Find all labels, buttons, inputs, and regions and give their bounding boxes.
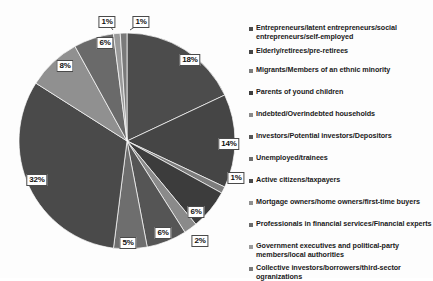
legend-item-label: Active citizens/taxpayers bbox=[256, 176, 340, 185]
pie-data-label: 32% bbox=[26, 174, 47, 186]
legend-item-label: Investors/Potential investors/Depositors bbox=[256, 132, 392, 141]
legend-marker-icon bbox=[249, 245, 253, 249]
pie-data-label: 14% bbox=[218, 138, 239, 150]
legend-item-label: Collective investors/borrowers/third-sec… bbox=[256, 264, 433, 281]
legend-marker-icon bbox=[249, 135, 253, 139]
legend-item-label: Professionals in financial services/Fina… bbox=[256, 220, 432, 229]
legend-item[interactable]: Elderly/retirees/pre-retirees bbox=[249, 47, 433, 56]
legend-marker-icon bbox=[249, 27, 253, 31]
pie-data-label: 18% bbox=[179, 54, 200, 66]
legend-item[interactable]: Government executives and political-part… bbox=[249, 242, 433, 259]
legend-item-label: Unemployed/trainees bbox=[256, 154, 328, 163]
pie-data-label: 1% bbox=[227, 172, 244, 184]
legend-marker-icon bbox=[249, 69, 253, 73]
legend-item[interactable]: Mortgage owners/home owners/first-time b… bbox=[249, 198, 433, 207]
pie-data-label: 1% bbox=[98, 16, 115, 28]
legend-item-label: Indebted/Overindebted households bbox=[256, 110, 375, 119]
legend-item-label: Mortgage owners/home owners/first-time b… bbox=[256, 198, 420, 207]
legend-item[interactable]: Professionals in financial services/Fina… bbox=[249, 220, 433, 229]
legend-item[interactable]: Indebted/Overindebted households bbox=[249, 110, 433, 119]
legend-item[interactable]: Parents of yound children bbox=[249, 88, 433, 97]
legend-item-label: Government executives and political-part… bbox=[256, 242, 433, 259]
pie-data-label: 8% bbox=[56, 60, 73, 72]
legend-item-label: Elderly/retirees/pre-retirees bbox=[256, 47, 348, 56]
legend-marker-icon bbox=[249, 113, 253, 117]
pie-data-label: 2% bbox=[191, 235, 208, 247]
legend-item[interactable]: Migrants/Members of an ethnic minority bbox=[249, 66, 433, 75]
pie-chart-area: 18%14%1%6%2%6%5%32%8%6%1%1% bbox=[0, 0, 248, 278]
legend-marker-icon bbox=[249, 50, 253, 54]
legend-item[interactable]: Unemployed/trainees bbox=[249, 154, 433, 163]
pie-data-label: 1% bbox=[132, 16, 149, 28]
legend-marker-icon bbox=[249, 179, 253, 183]
legend-item[interactable]: Entrepreneurs/latent entrepreneurs/socia… bbox=[249, 24, 433, 41]
chart-legend: Entrepreneurs/latent entrepreneurs/socia… bbox=[249, 22, 433, 272]
legend-marker-icon bbox=[249, 157, 253, 161]
legend-marker-icon bbox=[249, 223, 253, 227]
legend-marker-icon bbox=[249, 267, 253, 271]
legend-item-label: Parents of yound children bbox=[256, 88, 343, 97]
legend-marker-icon bbox=[249, 91, 253, 95]
legend-item[interactable]: Investors/Potential investors/Depositors bbox=[249, 132, 433, 141]
legend-marker-icon bbox=[249, 201, 253, 205]
legend-item[interactable]: Active citizens/taxpayers bbox=[249, 176, 433, 185]
pie-data-label: 6% bbox=[96, 37, 113, 49]
legend-item-label: Entrepreneurs/latent entrepreneurs/socia… bbox=[256, 24, 433, 41]
pie-data-label: 6% bbox=[154, 227, 171, 239]
pie-data-label: 6% bbox=[187, 206, 204, 218]
legend-item[interactable]: Collective investors/borrowers/third-sec… bbox=[249, 264, 433, 281]
pie-data-label: 5% bbox=[119, 237, 136, 249]
legend-item-label: Migrants/Members of an ethnic minority bbox=[256, 66, 390, 75]
